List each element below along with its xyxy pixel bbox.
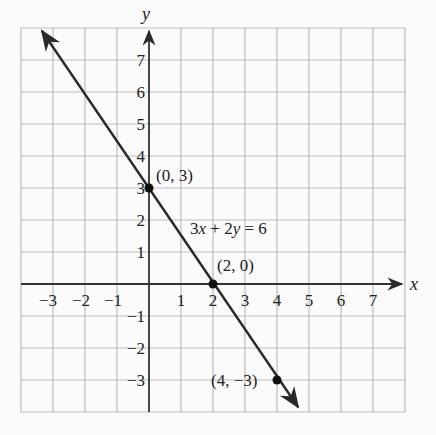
x-axis-label: x xyxy=(409,274,418,294)
point-0-3 xyxy=(145,184,154,193)
svg-text:1: 1 xyxy=(137,243,146,262)
svg-text:3: 3 xyxy=(241,291,250,310)
point-4-neg3 xyxy=(273,376,282,385)
svg-text:6: 6 xyxy=(137,83,146,102)
svg-text:7: 7 xyxy=(369,291,378,310)
coordinate-plane: x y −3 −2 −1 1 2 3 4 5 6 7 7 6 5 4 3 2 1… xyxy=(0,0,436,435)
point-label-4-neg3: (4, −3) xyxy=(211,371,257,390)
svg-text:4: 4 xyxy=(273,291,282,310)
svg-text:−3: −3 xyxy=(127,371,145,390)
point-label-0-3: (0, 3) xyxy=(156,166,193,185)
y-axis-label: y xyxy=(140,4,150,24)
x-tick-labels: −3 −2 −1 1 2 3 4 5 6 7 xyxy=(39,291,378,310)
point-2-0 xyxy=(209,280,218,289)
equation-label: 3x + 2y = 6 xyxy=(190,219,267,238)
svg-text:−3: −3 xyxy=(39,291,57,310)
svg-text:−1: −1 xyxy=(104,291,122,310)
point-label-2-0: (2, 0) xyxy=(217,256,254,275)
svg-text:7: 7 xyxy=(137,51,146,70)
svg-text:2: 2 xyxy=(209,291,218,310)
svg-text:1: 1 xyxy=(177,291,186,310)
svg-text:−2: −2 xyxy=(72,291,90,310)
svg-text:4: 4 xyxy=(137,147,146,166)
svg-text:−1: −1 xyxy=(127,307,145,326)
svg-text:−2: −2 xyxy=(127,339,145,358)
svg-text:6: 6 xyxy=(337,291,346,310)
svg-text:5: 5 xyxy=(305,291,314,310)
svg-text:5: 5 xyxy=(137,115,146,134)
svg-text:2: 2 xyxy=(137,211,146,230)
